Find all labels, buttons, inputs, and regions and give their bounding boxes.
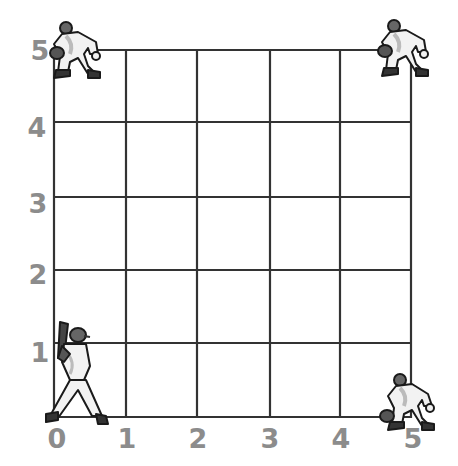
fielder-icon-top-left [44, 20, 116, 84]
fielder-icon-top-right [372, 18, 444, 82]
y-label-2: 2 [29, 261, 48, 288]
x-label-4: 4 [332, 425, 351, 452]
x-label-0: 0 [48, 425, 67, 452]
x-label-3: 3 [261, 425, 280, 452]
x-label-1: 1 [118, 425, 137, 452]
y-label-3: 3 [29, 190, 48, 217]
batter-icon [40, 318, 110, 428]
fielder-icon-bottom-right [376, 372, 448, 436]
x-label-2: 2 [189, 425, 208, 452]
coordinate-grid-diagram: 0 1 2 3 4 5 1 2 3 4 5 [0, 0, 458, 466]
y-label-4: 4 [28, 114, 47, 141]
